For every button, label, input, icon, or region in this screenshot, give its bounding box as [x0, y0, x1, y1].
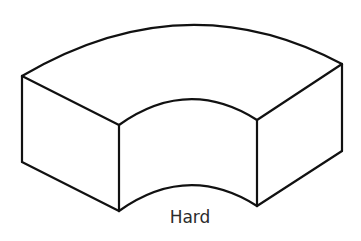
bottom-left-edge: [22, 162, 119, 211]
figure-caption: Hard: [0, 207, 361, 227]
top-outer-arc: [22, 25, 342, 76]
inner-top-arc: [119, 99, 257, 125]
curved-block-diagram: [0, 0, 361, 241]
top-right-edge: [257, 64, 342, 120]
bottom-right-edge: [257, 151, 342, 206]
top-left-edge: [22, 76, 119, 125]
